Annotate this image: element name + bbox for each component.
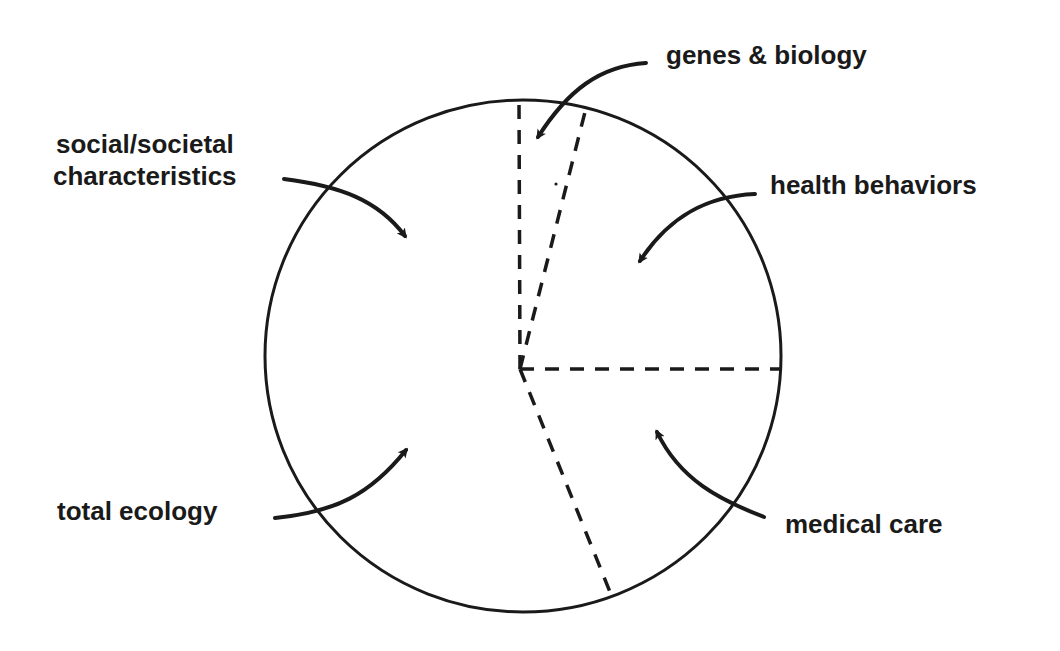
stray-mark bbox=[554, 182, 557, 185]
label-genes-biology: genes & biology bbox=[666, 39, 867, 71]
segment-dividers bbox=[519, 100, 781, 592]
arrow-genes-icon bbox=[538, 63, 646, 137]
arrow-medical-icon bbox=[657, 432, 764, 517]
label-total-ecology: total ecology bbox=[57, 495, 217, 527]
label-health-behaviors: health behaviors bbox=[770, 169, 977, 201]
arrow-health-icon bbox=[640, 194, 755, 261]
label-medical-care: medical care bbox=[785, 508, 943, 540]
arrow-ecology-icon bbox=[275, 450, 406, 518]
divider-genes-right bbox=[520, 108, 586, 369]
label-social-line2: characteristics bbox=[53, 160, 237, 192]
arrow-social-icon bbox=[284, 179, 405, 236]
label-social-line1: social/societal bbox=[56, 128, 237, 160]
divider-vertical bbox=[519, 100, 520, 369]
health-determinants-diagram bbox=[0, 0, 1060, 651]
label-social-characteristics: social/societal characteristics bbox=[56, 128, 237, 192]
divider-lower bbox=[520, 369, 610, 592]
